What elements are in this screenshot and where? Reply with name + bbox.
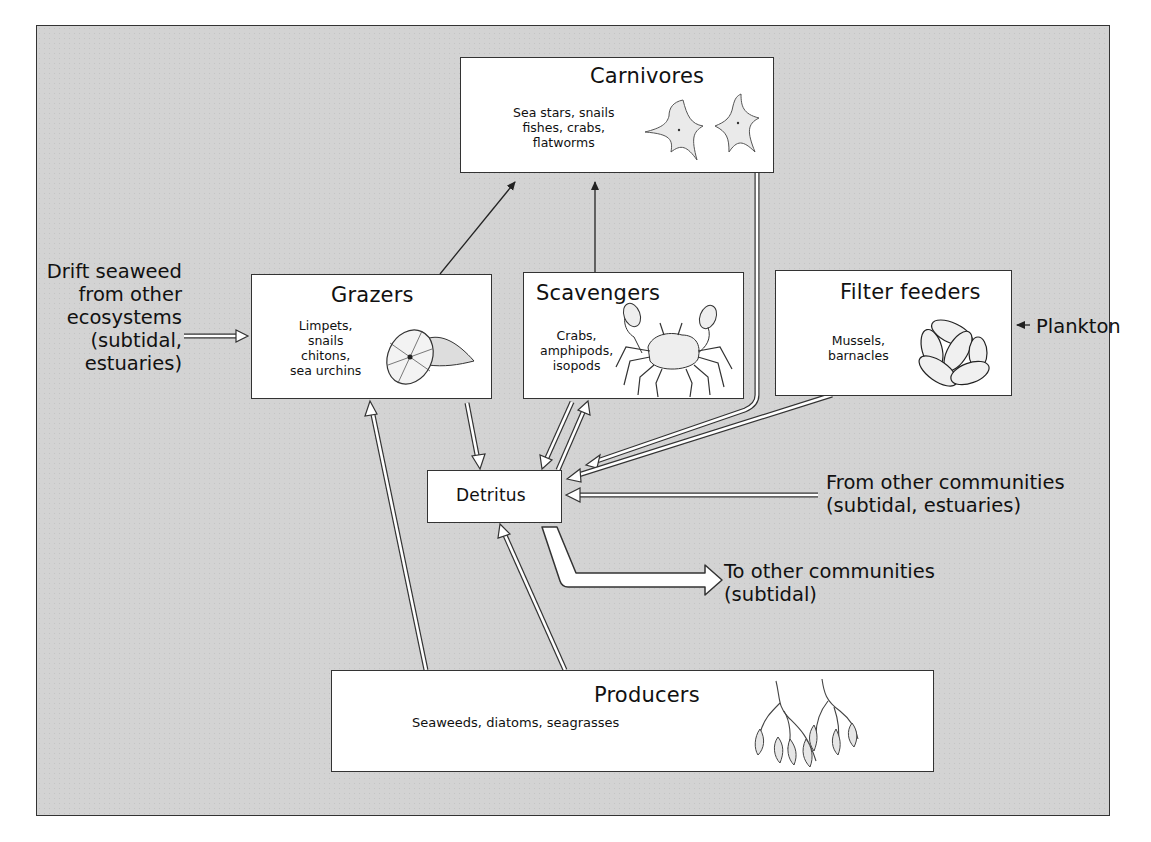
crab-icon	[612, 295, 744, 399]
node-members: Seaweeds, diatoms, seagrasses	[412, 715, 619, 730]
label-drift-seaweed: Drift seaweed from other ecosystems (sub…	[36, 260, 182, 375]
sea-star-icon	[643, 88, 775, 170]
node-carnivores: Carnivores Sea stars, snails fishes, cra…	[460, 57, 774, 173]
seaweed-icon	[744, 677, 874, 773]
label-from-other-communities: From other communities (subtidal, estuar…	[826, 471, 1065, 517]
node-title: Producers	[594, 683, 700, 707]
node-title: Filter feeders	[840, 280, 981, 304]
mussel-cluster-icon	[912, 315, 992, 393]
node-members: Limpets, snails chitons, sea urchins	[290, 318, 361, 378]
node-members: Sea stars, snails fishes, crabs, flatwor…	[513, 105, 614, 150]
node-producers: Producers Seaweeds, diatoms, seagrasses	[331, 670, 934, 772]
limpet-shell-icon	[382, 319, 482, 389]
node-detritus: Detritus	[427, 470, 562, 523]
label-to-other-communities: To other communities (subtidal)	[724, 560, 935, 606]
node-scavengers: Scavengers Crabs, amphipods, isopods	[523, 272, 744, 399]
node-members: Mussels, barnacles	[828, 333, 889, 363]
node-title: Grazers	[331, 283, 414, 307]
node-grazers: Grazers Limpets, snails chitons, sea urc…	[251, 274, 492, 399]
node-title: Carnivores	[590, 64, 704, 88]
label-plankton: Plankton	[1036, 315, 1121, 338]
node-title: Detritus	[456, 485, 526, 505]
node-members: Crabs, amphipods, isopods	[540, 328, 613, 373]
node-filter-feeders: Filter feeders Mussels, barnacles	[775, 270, 1012, 396]
